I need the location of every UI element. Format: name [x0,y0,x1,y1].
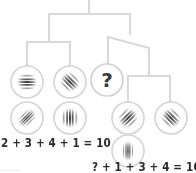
node-right-diagonal-up-grating [112,102,144,134]
question-mark: ? [101,68,113,92]
node-question: ? [91,64,123,96]
node-horizontal-grating [11,66,43,98]
equation-right: ? + 1 + 3 + 4 = 10 [92,160,196,173]
node-right-diagonal-down-grating [155,102,187,134]
equation-left: 2 + 3 + 4 + 1 = 10 [1,136,111,150]
right-slanted-bar [108,37,149,48]
node-diagonal-down-grating [54,66,86,98]
node-vertical-grating [54,102,86,134]
node-diagonal-up-grating [11,102,43,134]
